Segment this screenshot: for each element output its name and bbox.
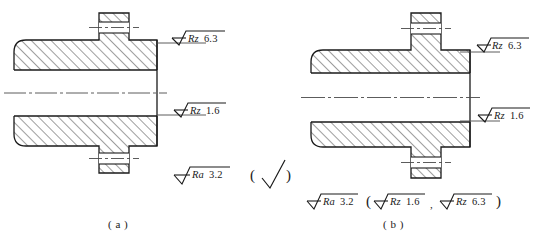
label-b-rz-63: Rz6.3: [492, 40, 522, 51]
bracket-close-paren: ): [496, 193, 501, 210]
param-ra: Ra: [323, 196, 335, 207]
drawing-canvas: Rz6.3 Rz1.6 Ra3.2 ( ) ( a ) Rz6.3 Rz1.6 …: [0, 0, 535, 245]
panel-a-part: [4, 13, 206, 173]
caption-panel-b: ( b ): [383, 218, 404, 230]
param-ra: Ra: [192, 169, 204, 180]
value-63: 6.3: [508, 40, 522, 51]
bracket-open-paren: (: [366, 193, 371, 210]
label-b-bracket-rz-63: Rz6.3: [456, 196, 486, 207]
label-a-rz-16: Rz1.6: [190, 105, 220, 116]
label-a-ra-32: Ra3.2: [192, 169, 223, 180]
label-b-rz-16: Rz1.6: [494, 110, 524, 121]
value-16: 1.6: [206, 105, 220, 116]
part-b-lower-wall: [311, 122, 470, 178]
value-16: 1.6: [406, 196, 420, 207]
param-rz: Rz: [390, 196, 401, 207]
general-symbol-close-paren: ): [286, 167, 291, 184]
caption-panel-a: ( a ): [108, 218, 128, 230]
part-a-upper-wall: [14, 13, 157, 70]
value-32: 3.2: [209, 169, 223, 180]
param-rz: Rz: [494, 110, 505, 121]
technical-drawing-svg: [0, 0, 535, 245]
value-63: 6.3: [472, 196, 486, 207]
value-32: 3.2: [340, 196, 354, 207]
bracket-separator-comma: ,: [430, 198, 433, 210]
label-a-rz-63: Rz6.3: [188, 33, 218, 44]
label-b-ra-32: Ra3.2: [323, 196, 354, 207]
general-symbol-open-paren: (: [250, 167, 255, 184]
part-a-lower-wall: [14, 116, 157, 173]
param-rz: Rz: [188, 33, 199, 44]
value-16: 1.6: [510, 110, 524, 121]
part-b-upper-wall: [311, 13, 470, 73]
param-rz: Rz: [190, 105, 201, 116]
label-b-bracket-rz-16: Rz1.6: [390, 196, 420, 207]
general-roughness-check-icon: [262, 160, 285, 188]
param-rz: Rz: [456, 196, 467, 207]
panel-b-part: [301, 13, 500, 178]
value-63: 6.3: [204, 33, 218, 44]
param-rz: Rz: [492, 40, 503, 51]
